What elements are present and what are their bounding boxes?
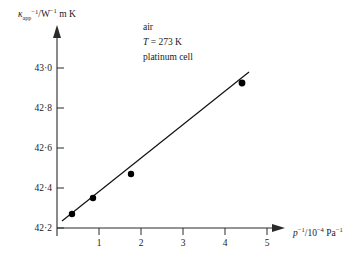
y-tick-labels: 42·2 42·4 42·6 42·8 43·0 (35, 63, 53, 233)
y-tick-label-0: 42·2 (35, 223, 53, 233)
x-tick-label-3: 4 (223, 238, 228, 248)
y-tick-label-2: 42·6 (35, 143, 53, 153)
annotation-temperature: T = 273 K (143, 37, 182, 47)
annotation-medium: air (143, 22, 154, 32)
x-tick-label-2: 3 (181, 238, 186, 248)
y-axis-exponent: −1 (31, 8, 38, 15)
x-axis (57, 224, 285, 232)
x-tick-label-1: 2 (139, 238, 144, 248)
x-axis-title: p−1/10−4 Pa−1 (292, 226, 343, 238)
y-axis-arrowhead (53, 25, 61, 38)
annotation-cell-type: platinum cell (143, 52, 193, 62)
x-tick-label-4: 5 (265, 238, 270, 248)
data-point-3 (128, 171, 134, 177)
chart-figure: 42·2 42·4 42·6 42·8 43·0 1 2 3 4 5 κapp−… (0, 0, 361, 269)
x-tick-marks (99, 228, 267, 235)
y-axis-divider: /W (38, 9, 50, 19)
annotation-temperature-value: = 273 K (151, 37, 182, 47)
x-tick-label-0: 1 (97, 238, 102, 248)
y-tick-label-4: 43·0 (35, 63, 53, 73)
y-axis-unit-exponent: −1 (50, 7, 57, 14)
y-axis (53, 25, 61, 236)
x-tick-labels: 1 2 3 4 5 (97, 238, 270, 248)
data-point-series (69, 80, 246, 218)
data-point-1 (69, 211, 75, 217)
x-axis-divider: /10 (305, 228, 317, 238)
x-axis-unit-exponent: −1 (336, 226, 343, 233)
y-tick-marks (57, 68, 64, 228)
y-tick-label-3: 42·8 (35, 103, 53, 113)
y-axis-title: κapp−1/W−1 m K (18, 7, 76, 21)
y-axis-unit-text: m K (59, 9, 76, 19)
annotation-block: air T = 273 K platinum cell (143, 22, 193, 62)
y-axis-subscript: app (23, 15, 32, 21)
x-axis-exponent: −1 (298, 226, 305, 233)
scatter-plot-canvas: 42·2 42·4 42·6 42·8 43·0 1 2 3 4 5 κapp−… (0, 0, 361, 269)
y-tick-label-1: 42·4 (35, 183, 53, 193)
data-point-4 (239, 80, 246, 87)
data-point-2 (90, 195, 96, 201)
x-axis-arrowhead (272, 224, 285, 232)
